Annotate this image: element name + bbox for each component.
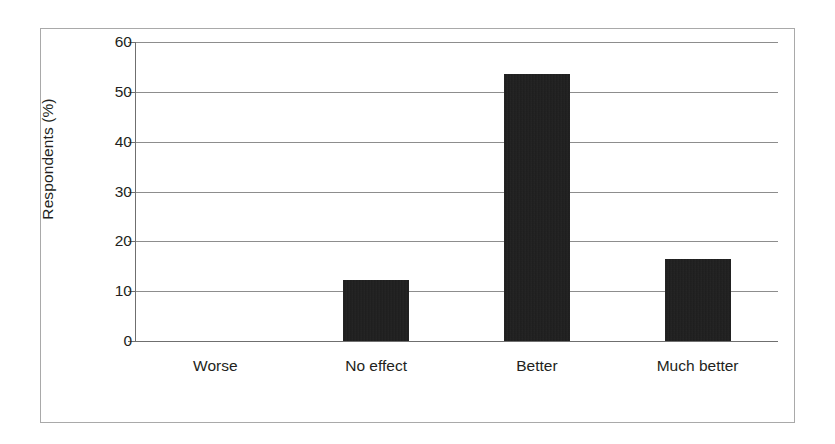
x-axis-baseline [135, 341, 778, 342]
gridline-20 [135, 241, 778, 242]
gridline-40 [135, 142, 778, 143]
gridline-60 [135, 42, 778, 43]
y-tick-label-20: 20 [72, 234, 132, 250]
bar [504, 74, 570, 341]
x-axis-label: No effect [286, 357, 466, 375]
x-axis-label: Worse [125, 357, 305, 375]
y-tick-label-0: 0 [72, 333, 132, 349]
plot-area: 0102030405060 WorseNo effectBetterMuch b… [135, 42, 778, 341]
y-tick-label-40: 40 [72, 134, 132, 150]
bar [343, 280, 409, 341]
y-tick-label-50: 50 [72, 84, 132, 100]
y-tick-label-10: 10 [72, 283, 132, 299]
gridline-30 [135, 192, 778, 193]
y-tick-label-30: 30 [72, 184, 132, 200]
chart-figure: Respondents (%) 0102030405060 WorseNo ef… [0, 0, 835, 444]
y-axis-line [135, 42, 136, 341]
y-tick-label-60: 60 [72, 34, 132, 50]
y-axis-title: Respondents (%) [39, 59, 57, 259]
x-axis-label: Better [447, 357, 627, 375]
x-axis-label: Much better [608, 357, 788, 375]
gridline-50 [135, 92, 778, 93]
bar [665, 259, 731, 341]
